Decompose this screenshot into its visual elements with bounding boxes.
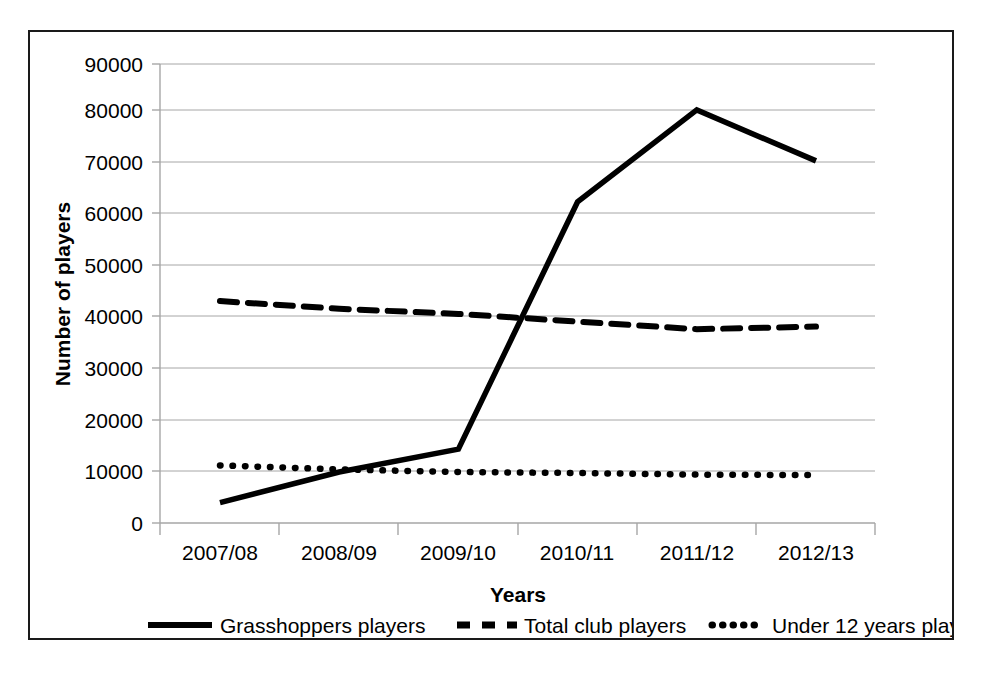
x-tick-label: 2010/11 — [540, 541, 614, 564]
y-tick-label: 10000 — [85, 460, 143, 483]
line-chart: 90000 80000 70000 60000 50000 40000 3000… — [30, 32, 952, 638]
x-tick-label: 2007/08 — [182, 541, 258, 564]
x-tick-label: 2011/12 — [660, 541, 734, 564]
gridlines — [160, 64, 875, 471]
y-tick-label: 60000 — [85, 202, 143, 225]
y-axis-title: Number of players — [51, 202, 74, 386]
y-tick-label: 20000 — [85, 409, 143, 432]
y-tick-label: 90000 — [85, 53, 143, 76]
y-axis-tick-labels: 90000 80000 70000 60000 50000 40000 3000… — [85, 53, 143, 535]
x-tick-label: 2012/13 — [778, 541, 854, 564]
y-tick-label: 80000 — [85, 99, 143, 122]
y-tick-label: 40000 — [85, 305, 143, 328]
legend: Grasshoppers players Total club players … — [148, 614, 952, 637]
x-axis-tickmarks — [160, 523, 875, 535]
x-axis-title: Years — [490, 583, 546, 606]
legend-label-grasshoppers-players: Grasshoppers players — [220, 614, 425, 637]
y-tick-label: 0 — [131, 512, 143, 535]
x-tick-label: 2008/09 — [301, 541, 377, 564]
y-tick-label: 30000 — [85, 357, 143, 380]
y-tick-label: 50000 — [85, 254, 143, 277]
series-line-under-12-years-players — [220, 465, 816, 475]
legend-label-total-club-players: Total club players — [524, 614, 686, 637]
chart-frame: 90000 80000 70000 60000 50000 40000 3000… — [28, 30, 954, 640]
legend-label-under-12-years-players: Under 12 years players — [772, 614, 952, 637]
x-axis-tick-labels: 2007/08 2008/09 2009/10 2010/11 2011/12 … — [182, 541, 854, 564]
y-axis-tickmarks — [152, 64, 160, 523]
x-tick-label: 2009/10 — [420, 541, 496, 564]
y-tick-label: 70000 — [85, 151, 143, 174]
